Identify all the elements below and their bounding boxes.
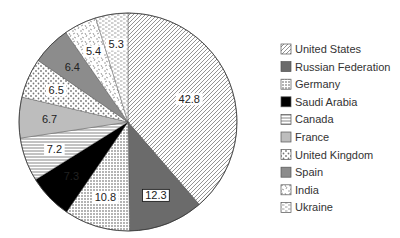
pie-chart: 42.812.310.87.37.26.76.56.45.45.3 United… xyxy=(0,0,400,238)
legend-label: Canada xyxy=(295,113,334,125)
slice-value-label: 6.5 xyxy=(49,84,64,96)
legend-swatch xyxy=(281,167,291,177)
legend-label: Ukraine xyxy=(295,201,333,213)
legend-swatch xyxy=(281,132,291,142)
legend-label: Spain xyxy=(295,166,323,178)
legend-swatch xyxy=(281,185,291,195)
legend-swatch xyxy=(281,62,291,72)
legend-label: Russian Federation xyxy=(295,61,390,73)
legend-swatch xyxy=(281,150,291,160)
legend: United StatesRussian FederationGermanySa… xyxy=(281,43,390,213)
slice-value-label: 10.8 xyxy=(95,191,116,203)
slice-value-label: 5.4 xyxy=(86,45,101,57)
slice-value-label: 6.7 xyxy=(42,113,57,125)
slice-value-label: 6.4 xyxy=(65,61,80,73)
legend-label: France xyxy=(295,131,329,143)
legend-swatch xyxy=(281,114,291,124)
slice-value-label: 7.2 xyxy=(47,143,62,155)
slice-value-label: 12.3 xyxy=(145,189,166,201)
slice-value-label: 5.3 xyxy=(109,38,124,50)
legend-label: United Kingdom xyxy=(295,149,373,161)
slice-value-label: 7.3 xyxy=(64,170,79,182)
legend-label: India xyxy=(295,184,320,196)
legend-label: Germany xyxy=(295,78,341,90)
legend-swatch xyxy=(281,97,291,107)
legend-swatch xyxy=(281,202,291,212)
legend-swatch xyxy=(281,44,291,54)
legend-label: Saudi Arabia xyxy=(295,96,358,108)
legend-label: United States xyxy=(295,43,362,55)
slice-value-label: 42.8 xyxy=(179,93,200,105)
legend-swatch xyxy=(281,79,291,89)
